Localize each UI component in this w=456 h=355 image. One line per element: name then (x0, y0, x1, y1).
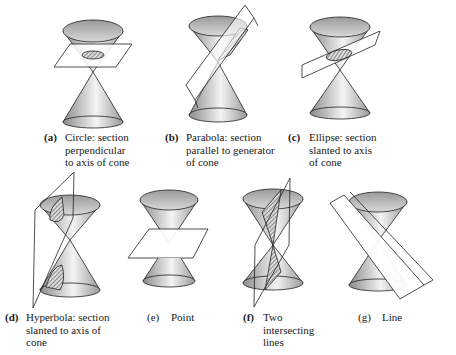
caption-b-text: Parabola: section parallel to generator … (186, 131, 275, 169)
panel-g-line (330, 192, 433, 299)
caption-f-label: (f) (243, 311, 254, 324)
panel-e-point (128, 190, 208, 287)
caption-d-text: Hyperbola: section slanted to axis of co… (26, 311, 109, 349)
conic-sections-diagram (0, 0, 456, 355)
panel-a-circle (54, 20, 132, 128)
panel-c-ellipse (302, 17, 380, 119)
caption-g-text: Line (382, 311, 402, 324)
caption-c-text: Ellipse: section slanted to axis of cone (309, 131, 377, 169)
caption-b-label: (b) (165, 131, 178, 144)
caption-d-label: (d) (5, 311, 18, 324)
caption-e-text: Point (171, 311, 194, 324)
caption-a-text: Circle: section perpendicular to axis of… (65, 131, 129, 169)
panel-f-two-intersecting-lines (243, 178, 303, 307)
caption-e-label: (e) (147, 311, 159, 324)
caption-f-text: Two intersecting lines (263, 311, 314, 349)
caption-g-label: (g) (358, 311, 371, 324)
panel-b-parabola (186, 5, 258, 122)
caption-c-label: (c) (288, 131, 300, 144)
panel-d-hyperbola (33, 172, 100, 308)
caption-a-label: (a) (44, 131, 57, 144)
